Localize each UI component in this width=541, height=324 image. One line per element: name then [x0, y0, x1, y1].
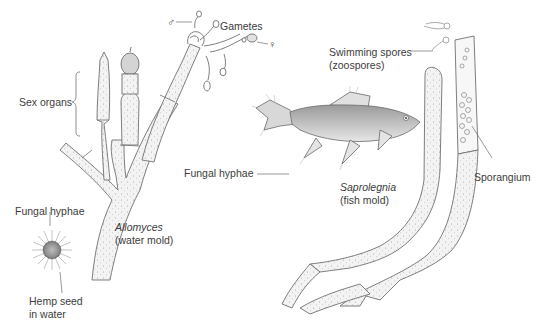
sex-organs-label: Sex organs	[19, 96, 72, 108]
allomyces-name-label: Allomyces	[115, 221, 163, 233]
saprolegnia-common-label: (fish mold)	[340, 194, 389, 206]
water-mold-diagram: Gametes ♂ ♀ Sex organs Fungal hyphae Hem…	[0, 0, 541, 324]
hemp-seed	[32, 212, 72, 293]
allomyces-common-label: (water mold)	[115, 234, 173, 246]
fungal-hyphae-left-label: Fungal hyphae	[15, 205, 84, 217]
fish	[252, 86, 420, 170]
hemp-seed-label-line2: in water	[29, 308, 66, 320]
male-symbol: ♂	[167, 16, 175, 28]
hemp-seed-label-line1: Hemp seed	[29, 295, 83, 307]
saprolegnia-name-label: Saprolegnia	[340, 181, 396, 193]
sporangium-label: Sporangium	[474, 171, 531, 183]
gametangium	[121, 47, 139, 94]
swimming-spores-label-line2: (zoospores)	[329, 59, 384, 71]
saprolegnia-hyphae	[282, 36, 478, 314]
sex-organs-brace	[72, 72, 80, 136]
gametes-label: Gametes	[220, 20, 263, 32]
swimming-spores-label-line1: Swimming spores	[329, 46, 412, 58]
zoospores	[411, 23, 492, 159]
female-symbol: ♀	[268, 38, 276, 50]
fungal-hyphae-center-label: Fungal hyphae	[184, 167, 253, 179]
